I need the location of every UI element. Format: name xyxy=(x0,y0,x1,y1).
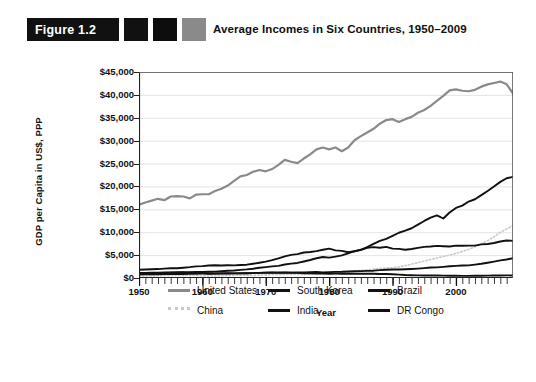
y-tick-label: $25,000 xyxy=(62,158,134,169)
header-swatch-3 xyxy=(182,18,206,41)
y-tick-label: $10,000 xyxy=(62,226,134,237)
chart-svg xyxy=(139,72,513,288)
legend-label: South Korea xyxy=(297,285,353,296)
y-axis-tick-labels: $45,000$40,000$35,000$30,000$25,000$20,0… xyxy=(58,48,134,278)
figure-root: Figure 1.2 Average Incomes in Six Countr… xyxy=(0,0,536,382)
y-tick-label: $40,000 xyxy=(62,89,134,100)
y-axis-label: GDP per Capita in US$, PPP xyxy=(33,97,44,267)
legend-swatch-icon xyxy=(268,289,290,292)
legend-swatch-icon xyxy=(268,309,290,312)
y-tick-label: $20,000 xyxy=(62,180,134,191)
legend-label: DR Congo xyxy=(397,305,444,316)
figure-number-badge: Figure 1.2 xyxy=(27,18,119,41)
y-tick-label: $15,000 xyxy=(62,203,134,214)
chart-legend: United StatesChinaSouth KoreaIndiaBrazil… xyxy=(0,276,536,326)
plot-canvas xyxy=(139,72,513,278)
y-tick-label: $35,000 xyxy=(62,112,134,123)
legend-item-united-states[interactable]: United States xyxy=(168,282,257,298)
legend-label: United States xyxy=(197,285,257,296)
legend-swatch-icon xyxy=(368,309,390,312)
legend-swatch-icon xyxy=(368,289,390,292)
legend-item-dr-congo[interactable]: DR Congo xyxy=(368,302,444,318)
y-tick-label: $45,000 xyxy=(62,66,134,77)
figure-header: Figure 1.2 Average Incomes in Six Countr… xyxy=(0,14,536,48)
legend-label: Brazil xyxy=(397,285,422,296)
legend-swatch-icon xyxy=(168,289,190,292)
y-tick-label: $30,000 xyxy=(62,135,134,146)
legend-label: China xyxy=(197,305,223,316)
figure-title: Average Incomes in Six Countries, 1950–2… xyxy=(213,23,467,35)
legend-swatch-icon xyxy=(168,307,190,313)
header-swatch-1 xyxy=(124,18,148,41)
legend-item-south-korea[interactable]: South Korea xyxy=(268,282,353,298)
legend-item-india[interactable]: India xyxy=(268,302,319,318)
header-swatch-2 xyxy=(153,18,177,41)
legend-label: India xyxy=(297,305,319,316)
chart-area: GDP per Capita in US$, PPP Year $45,000$… xyxy=(0,48,536,382)
y-tick-label: $5,000 xyxy=(62,249,134,260)
legend-item-brazil[interactable]: Brazil xyxy=(368,282,422,298)
legend-item-china[interactable]: China xyxy=(168,302,223,318)
